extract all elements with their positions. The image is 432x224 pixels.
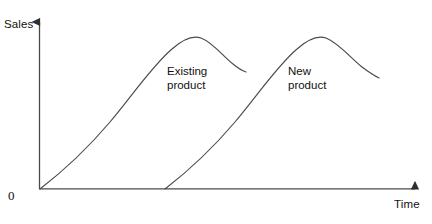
annotation-existing-line2: product [167,78,207,92]
plot-area [0,0,432,224]
annotation-existing-line1: Existing [167,64,207,78]
x-axis-title: Time [394,198,420,212]
annotation-new-line1: New [288,64,326,78]
origin-label: 0 [8,188,15,203]
curve-new-product [165,37,379,189]
annotation-existing-product: Existing product [167,64,207,92]
y-axis-title: Sales [4,18,34,32]
annotation-new-product: New product [288,64,326,92]
annotation-new-line2: product [288,78,326,92]
product-life-cycle-diagram: Sales Time 0 Existing product New produc… [0,0,432,224]
curve-existing-product [40,37,246,189]
